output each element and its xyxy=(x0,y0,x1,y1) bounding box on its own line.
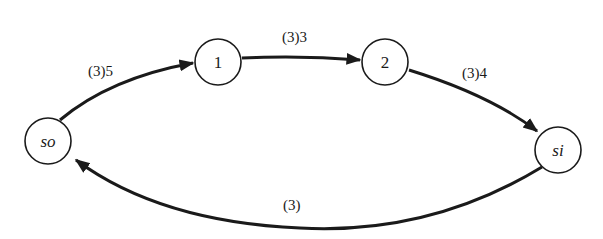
edge-label-so-1: (3)5 xyxy=(88,63,113,80)
node-label-2: 2 xyxy=(381,53,390,72)
node-si: si xyxy=(535,127,581,173)
node-label-so: so xyxy=(40,132,55,151)
node-label-si: si xyxy=(552,141,564,160)
node-label-1: 1 xyxy=(214,53,223,72)
node-so: so xyxy=(25,118,71,164)
node-1: 1 xyxy=(195,39,241,85)
node-2: 2 xyxy=(362,39,408,85)
edge-label-1-2: (3)3 xyxy=(282,29,307,46)
edge-so-to-1 xyxy=(60,63,193,120)
flow-network-diagram: (3)5 (3)3 (3)4 (3) so 1 2 si xyxy=(0,0,603,239)
edge-label-si-so: (3) xyxy=(283,197,301,214)
edge-si-to-so xyxy=(76,160,542,229)
edge-1-to-2 xyxy=(242,57,360,60)
edge-label-2-si: (3)4 xyxy=(462,65,487,82)
